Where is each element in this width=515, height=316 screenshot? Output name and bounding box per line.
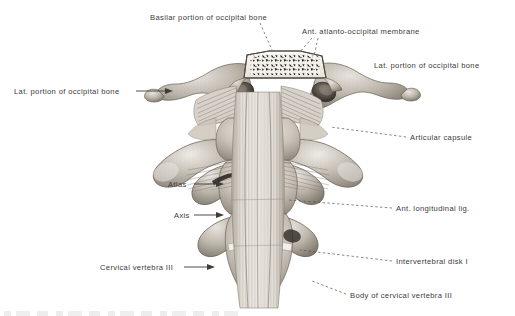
label-ant-longitudinal-lig: Ant. longitudinal lig. [396,205,470,213]
leader-basilar-portion [260,23,272,50]
label-lat-portion-of-occipital-bone-right: Lat. portion of occipital bone [374,62,480,70]
page-edge-artifact [4,311,244,316]
label-body-of-cervical-vertebra-iii: Body of cervical vertebra III [350,292,452,300]
label-axis: Axis [174,212,190,220]
label-basilar-portion-of-occipital-bone: Basilar portion of occipital bone [150,14,267,22]
label-articular-capsule: Articular capsule [410,134,472,142]
label-intervertebral-disk-i: Intervertebral disk I [396,258,468,266]
figure-page: Basilar portion of occipital bone Ant. a… [0,0,515,316]
label-lat-portion-of-occipital-bone-left: Lat. portion of occipital bone [14,88,120,96]
specimen-craniovertebral-junction [140,46,430,312]
label-atlas: Atlas [168,181,187,189]
label-cervical-vertebra-iii: Cervical vertebra III [100,264,173,272]
label-ant-atlanto-occipital-membrane: Ant. atlanto-occipital membrane [302,28,420,36]
anatomical-illustration [0,0,515,316]
